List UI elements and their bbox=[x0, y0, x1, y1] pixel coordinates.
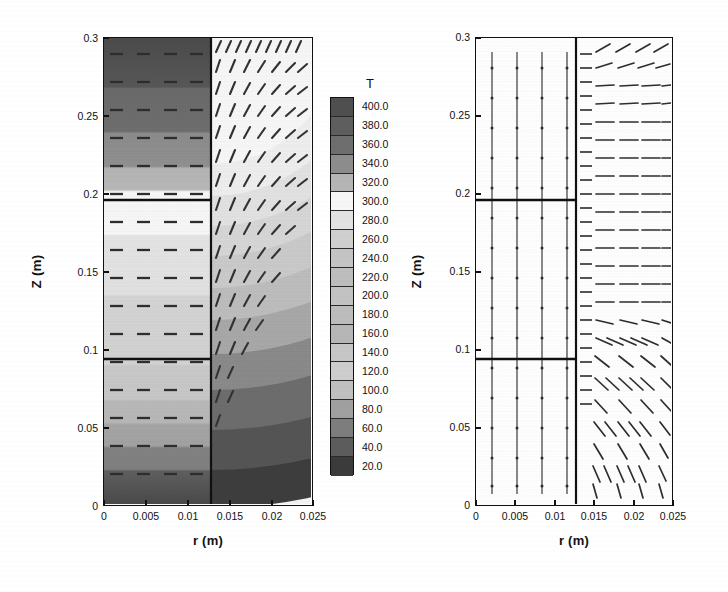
right-ytickmark-0.15 bbox=[475, 271, 481, 273]
colorbar-tick-180.0: 180.0 bbox=[362, 308, 388, 320]
left-ytickmark-0.1 bbox=[103, 349, 109, 351]
colorbar-tick-220.0: 220.0 bbox=[362, 271, 388, 283]
right-panel: 0.3 0.25 0.2 0.15 0.1 0.05 0 Z (m) bbox=[400, 0, 728, 592]
left-y-axis-label: Z (m) bbox=[29, 242, 44, 302]
colorbar-cell bbox=[331, 192, 353, 211]
right-xtickmark-0.005 bbox=[514, 500, 516, 506]
left-xtick-0.01: 0.01 bbox=[178, 510, 198, 522]
colorbar-tick-40.0: 40.0 bbox=[362, 441, 382, 453]
left-ytick-0.25: 0.25 bbox=[58, 110, 98, 122]
colorbar-tick-140.0: 140.0 bbox=[362, 346, 388, 358]
left-ytick-0: 0 bbox=[58, 500, 98, 512]
colorbar-cell bbox=[331, 136, 353, 155]
colorbar-tick-200.0: 200.0 bbox=[362, 289, 388, 301]
colorbar-cell bbox=[331, 117, 353, 136]
right-ytick-0.2: 0.2 bbox=[428, 187, 470, 199]
left-xtickmark-0.015 bbox=[229, 500, 231, 506]
colorbar-tick-260.0: 260.0 bbox=[362, 233, 388, 245]
right-ytickmark-0.25 bbox=[475, 115, 481, 117]
colorbar-cell bbox=[331, 211, 353, 230]
colorbar-cell bbox=[331, 325, 353, 344]
colorbar-tick-20.0: 20.0 bbox=[362, 460, 382, 472]
left-xtickmark-0.02 bbox=[271, 500, 273, 506]
colorbar-cell bbox=[331, 230, 353, 249]
colorbar-cell bbox=[331, 438, 353, 457]
colorbar-tick-400.0: 400.0 bbox=[362, 100, 388, 112]
left-ytick-0.15: 0.15 bbox=[58, 266, 98, 278]
right-ytickmark-0.3 bbox=[475, 37, 481, 39]
colorbar-tick-340.0: 340.0 bbox=[362, 157, 388, 169]
colorbar-tick-280.0: 280.0 bbox=[362, 214, 388, 226]
left-ytickmark-0.15 bbox=[103, 271, 109, 273]
colorbar-cell bbox=[331, 400, 353, 419]
colorbar-strip bbox=[330, 97, 354, 475]
left-ytickmark-0.3 bbox=[103, 37, 109, 39]
right-x-axis-label: r (m) bbox=[475, 533, 673, 548]
left-plot-area bbox=[103, 37, 313, 506]
left-xtickmark-0.01 bbox=[187, 500, 189, 506]
right-ytick-0.3: 0.3 bbox=[428, 31, 470, 43]
right-xtickmark-0.015 bbox=[593, 500, 595, 506]
colorbar-tick-80.0: 80.0 bbox=[362, 403, 382, 415]
right-ytickmark-0.05 bbox=[475, 427, 481, 429]
left-xtick-0.005: 0.005 bbox=[133, 510, 159, 522]
right-xtickmark-0.025 bbox=[672, 500, 674, 506]
left-xtick-0.015: 0.015 bbox=[217, 510, 243, 522]
left-xtickmark-0.025 bbox=[312, 500, 314, 506]
right-ytick-0.25: 0.25 bbox=[428, 109, 470, 121]
colorbar-cell bbox=[331, 381, 353, 400]
left-xtickmark-0 bbox=[103, 500, 105, 506]
left-xtickmark-0.005 bbox=[145, 500, 147, 506]
left-ytick-0.3: 0.3 bbox=[58, 32, 98, 44]
colorbar-cell bbox=[331, 362, 353, 381]
left-ytickmark-0.05 bbox=[103, 427, 109, 429]
colorbar-tick-320.0: 320.0 bbox=[362, 176, 388, 188]
colorbar-cell bbox=[331, 98, 353, 117]
colorbar-tick-100.0: 100.0 bbox=[362, 384, 388, 396]
right-xtickmark-0.01 bbox=[554, 500, 556, 506]
left-ytickmark-0.25 bbox=[103, 115, 109, 117]
left-ytick-0.1: 0.1 bbox=[58, 344, 98, 356]
colorbar-cell bbox=[331, 419, 353, 438]
colorbar-title: T bbox=[366, 76, 374, 91]
right-plot-area bbox=[475, 37, 673, 506]
colorbar-tick-60.0: 60.0 bbox=[362, 422, 382, 434]
right-ytick-0: 0 bbox=[428, 499, 470, 511]
left-xtick-0.02: 0.02 bbox=[262, 510, 282, 522]
left-contour-svg bbox=[104, 38, 311, 504]
right-vector-svg bbox=[476, 38, 671, 504]
right-xtick-0.015: 0.015 bbox=[581, 510, 607, 522]
left-ytick-0.05: 0.05 bbox=[58, 422, 98, 434]
colorbar-tick-240.0: 240.0 bbox=[362, 252, 388, 264]
inner-contour-bands bbox=[104, 38, 211, 504]
right-xtick-0: 0 bbox=[473, 510, 479, 522]
right-ytick-0.1: 0.1 bbox=[428, 343, 470, 355]
left-xtick-0: 0 bbox=[101, 510, 107, 522]
right-xtick-0.01: 0.01 bbox=[545, 510, 565, 522]
colorbar-cell bbox=[331, 268, 353, 287]
right-ytick-0.15: 0.15 bbox=[428, 265, 470, 277]
colorbar-tick-380.0: 380.0 bbox=[362, 119, 388, 131]
left-ytickmark-0.2 bbox=[103, 193, 109, 195]
right-y-axis-label: Z (m) bbox=[409, 242, 424, 302]
left-ytick-0.2: 0.2 bbox=[58, 188, 98, 200]
figure-canvas: 0.3 0.25 0.2 0.15 0.1 0.05 0 Z (m) bbox=[0, 0, 728, 592]
colorbar-cell bbox=[331, 344, 353, 363]
colorbar-cell bbox=[331, 287, 353, 306]
right-ytick-0.05: 0.05 bbox=[428, 421, 470, 433]
colorbar-cell bbox=[331, 306, 353, 325]
colorbar-tick-300.0: 300.0 bbox=[362, 195, 388, 207]
right-xtickmark-0.02 bbox=[633, 500, 635, 506]
colorbar-cell bbox=[331, 174, 353, 193]
right-ytickmark-0.2 bbox=[475, 193, 481, 195]
right-xtick-0.025: 0.025 bbox=[660, 510, 686, 522]
colorbar-tick-360.0: 360.0 bbox=[362, 138, 388, 150]
left-panel: 0.3 0.25 0.2 0.15 0.1 0.05 0 Z (m) bbox=[0, 0, 340, 592]
right-xtick-0.005: 0.005 bbox=[502, 510, 528, 522]
right-ytickmark-0.1 bbox=[475, 349, 481, 351]
colorbar-cell bbox=[331, 457, 353, 476]
colorbar-tick-120.0: 120.0 bbox=[362, 365, 388, 377]
colorbar-tick-160.0: 160.0 bbox=[362, 327, 388, 339]
colorbar-cell bbox=[331, 249, 353, 268]
left-x-axis-label: r (m) bbox=[103, 533, 313, 548]
